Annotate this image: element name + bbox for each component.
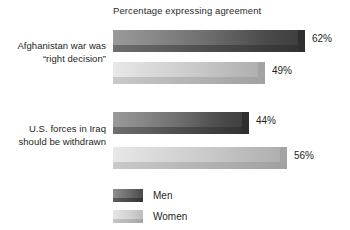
- legend-swatch-face: [113, 210, 143, 219]
- bar-men-afghanistan: [113, 30, 305, 52]
- category-label-afghanistan: Afghanistan war was “right decision”: [0, 40, 106, 65]
- category-label-line: U.S. forces in Iraq: [0, 123, 106, 136]
- bar-face: [113, 62, 265, 77]
- bar-women-iraq: [113, 147, 287, 169]
- bar-value-label: 49%: [272, 65, 292, 77]
- legend-swatch-base: [113, 219, 143, 223]
- bar-base: [113, 162, 287, 169]
- legend-label-women: Women: [153, 209, 187, 224]
- bar-women-afghanistan: [113, 62, 265, 84]
- legend-swatch-base: [113, 198, 143, 202]
- bar-base: [113, 77, 265, 84]
- bar-face: [113, 30, 305, 45]
- bar-value-label: 62%: [312, 33, 332, 45]
- category-label-iraq: U.S. forces in Iraq should be withdrawn: [0, 123, 106, 148]
- legend-swatch-men-icon: [113, 189, 143, 202]
- bar-men-iraq: [113, 112, 249, 134]
- category-label-line: should be withdrawn: [0, 136, 106, 149]
- category-label-line: Afghanistan war was: [0, 40, 106, 53]
- bar-value-label: 44%: [256, 115, 276, 127]
- chart-title: Percentage expressing agreement: [113, 5, 261, 17]
- bar-base: [113, 45, 305, 52]
- bar-base: [113, 127, 249, 134]
- legend-label-men: Men: [153, 188, 172, 203]
- bar-chart: Percentage expressing agreement Afghanis…: [0, 0, 350, 230]
- bar-value-label: 56%: [294, 150, 314, 162]
- bar-face: [113, 147, 287, 162]
- legend-swatch-face: [113, 189, 143, 198]
- category-label-line: “right decision”: [0, 53, 106, 66]
- bar-face: [113, 112, 249, 127]
- legend-swatch-women-icon: [113, 210, 143, 223]
